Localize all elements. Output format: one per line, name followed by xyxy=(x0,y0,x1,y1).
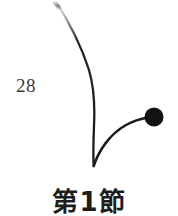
flourish-terminal-dot xyxy=(145,108,164,127)
curved-flourish-ornament xyxy=(0,0,178,180)
flourish-sweep-stroke xyxy=(94,117,148,166)
section-heading: 第1節 xyxy=(0,188,178,216)
flourish-main-stroke xyxy=(55,0,94,166)
book-page-fragment: 28 第1節 xyxy=(0,0,178,216)
